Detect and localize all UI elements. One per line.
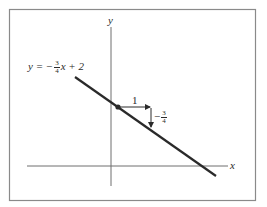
equation-fraction: 34 (54, 60, 60, 75)
equation-label: y = −34x + 2 (28, 60, 84, 75)
run-label: 1 (132, 95, 138, 106)
rise-frac-den: 4 (161, 118, 167, 125)
rise-sign: − (154, 110, 160, 122)
graph-line (75, 77, 216, 176)
rise-label: −34 (154, 110, 168, 125)
equation-rhs: x + 2 (61, 60, 84, 72)
y-axis-label: y (108, 15, 113, 26)
equation-lhs: y = − (28, 60, 53, 72)
rise-fraction: 34 (161, 110, 167, 125)
x-axis-label: x (230, 160, 235, 171)
equation-frac-den: 4 (54, 68, 60, 75)
